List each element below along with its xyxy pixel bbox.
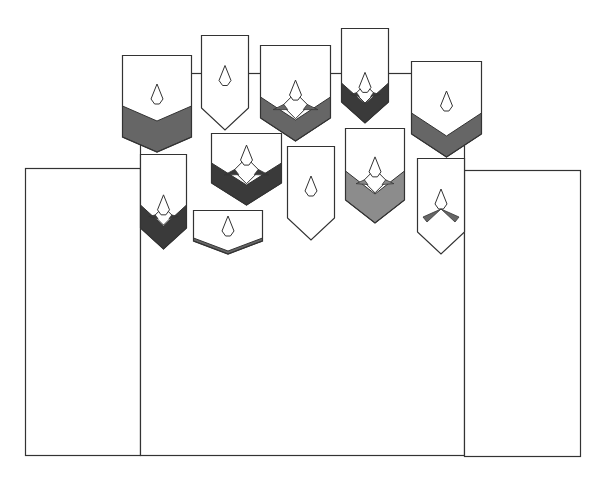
left-panel bbox=[26, 169, 141, 456]
banner-4 bbox=[342, 29, 389, 124]
banner-6 bbox=[141, 155, 187, 250]
right-panel bbox=[465, 171, 581, 457]
banner-diagram bbox=[0, 0, 604, 481]
banner-1 bbox=[123, 56, 192, 153]
